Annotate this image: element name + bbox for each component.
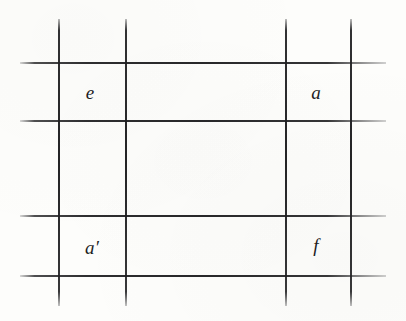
figure-canvas: e a a′ f bbox=[0, 0, 406, 321]
hline-4 bbox=[20, 275, 386, 277]
hline-3 bbox=[20, 215, 386, 217]
cell-label-a-prime: a′ bbox=[85, 238, 99, 257]
hline-1 bbox=[20, 62, 386, 64]
hline-2 bbox=[20, 120, 386, 122]
cell-label-a: a bbox=[311, 83, 321, 102]
paper-texture bbox=[0, 0, 406, 321]
cell-label-f: f bbox=[313, 236, 318, 255]
cell-label-e: e bbox=[86, 83, 95, 102]
